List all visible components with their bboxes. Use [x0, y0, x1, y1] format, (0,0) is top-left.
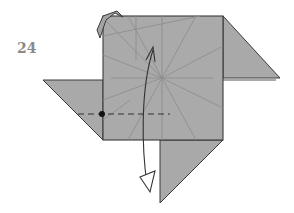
- right-flap: [223, 16, 280, 78]
- reference-dot: [99, 111, 105, 117]
- left-flap: [43, 80, 103, 140]
- arrow-head-icon: [140, 171, 155, 192]
- bottom-flap: [160, 140, 223, 203]
- origami-diagram: 24: [0, 0, 294, 213]
- diagram-figure: [0, 0, 294, 213]
